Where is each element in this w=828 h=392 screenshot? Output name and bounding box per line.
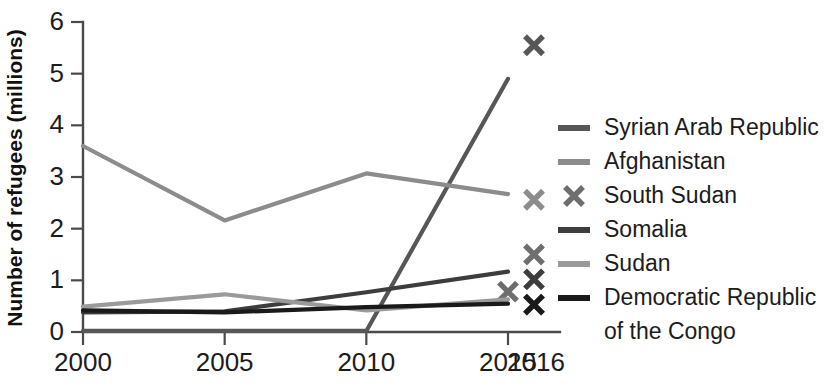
chart-canvas: 0123456 20002005201020152016 Number of r… xyxy=(0,0,828,392)
y-axis-title: Number of refugees (millions) xyxy=(3,29,26,327)
series-line xyxy=(83,304,508,313)
legend-item-label[interactable]: South Sudan xyxy=(604,182,737,208)
series-group xyxy=(83,79,517,331)
y-axis-tick-group: 0123456 xyxy=(50,6,83,346)
y-tick-label: 1 xyxy=(50,264,64,294)
y-tick-label: 2 xyxy=(50,213,64,243)
y-tick-label: 3 xyxy=(50,161,64,191)
chart-legend: Syrian Arab RepublicAfghanistanSouth Sud… xyxy=(558,114,819,344)
year-2016-marker xyxy=(525,270,543,288)
legend-item-label[interactable]: Democratic Republic xyxy=(604,284,816,310)
y-tick-label: 0 xyxy=(50,316,64,346)
year-2016-marker-group xyxy=(525,36,543,313)
x-tick-label: 2000 xyxy=(54,347,112,377)
legend-item-label[interactable]: Syrian Arab Republic xyxy=(604,114,819,140)
x-tick-label: 2016 xyxy=(507,347,565,377)
legend-item-label[interactable]: Afghanistan xyxy=(604,148,725,174)
series-line xyxy=(83,79,508,331)
legend-item-label[interactable]: Somalia xyxy=(604,216,687,242)
x-tick-label: 2010 xyxy=(337,347,395,377)
y-tick-label: 5 xyxy=(50,58,64,88)
legend-item-label[interactable]: of the Congo xyxy=(604,318,736,344)
legend-item-label[interactable]: Sudan xyxy=(604,250,671,276)
x-axis-tick-group: 20002005201020152016 xyxy=(54,332,565,377)
year-2016-marker xyxy=(525,246,543,264)
refugees-line-chart: 0123456 20002005201020152016 Number of r… xyxy=(0,0,828,392)
year-2016-marker xyxy=(525,36,543,54)
year-2016-marker xyxy=(525,296,543,314)
x-tick-label: 2005 xyxy=(196,347,254,377)
legend-swatch-cross xyxy=(565,187,583,205)
y-tick-label: 6 xyxy=(50,6,64,36)
series-line xyxy=(83,146,508,220)
y-tick-label: 4 xyxy=(50,109,64,139)
year-2016-marker xyxy=(525,191,543,209)
